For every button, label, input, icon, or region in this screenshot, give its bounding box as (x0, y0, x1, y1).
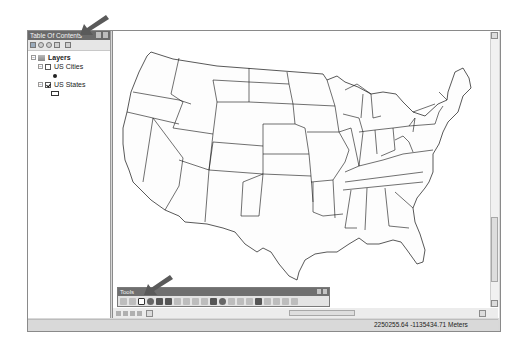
layer-visibility-checkbox[interactable] (45, 64, 51, 70)
find-route-icon[interactable] (264, 298, 271, 305)
zoom-out-icon[interactable] (129, 298, 136, 305)
layer-label: US Cities (54, 62, 83, 71)
layout-view-button[interactable] (123, 311, 128, 316)
scroll-down-button[interactable] (491, 300, 498, 307)
refresh-button[interactable] (130, 311, 135, 316)
annotation-arrow-tools (140, 272, 174, 298)
fixed-zoom-out-icon[interactable] (165, 298, 172, 305)
pan-icon[interactable] (138, 298, 145, 305)
create-viewer-icon[interactable] (291, 298, 298, 305)
tools-title: Tools (120, 289, 134, 295)
layer-tree: − Layers − US Cities − US States (28, 51, 110, 98)
list-by-selection-icon[interactable] (54, 42, 60, 48)
identify-icon[interactable] (219, 298, 226, 305)
collapse-icon[interactable]: − (31, 55, 36, 60)
scroll-left-button[interactable] (146, 310, 153, 317)
time-slider-icon[interactable] (282, 298, 289, 305)
full-extent-icon[interactable] (147, 298, 154, 305)
annotation-arrow-toc (76, 12, 110, 38)
select-elements-icon[interactable] (210, 298, 217, 305)
tools-options-button[interactable] (317, 289, 321, 294)
legend-us-cities[interactable] (28, 71, 110, 80)
status-bar: 2250255.64 -1135434.71 Meters (28, 319, 498, 331)
tools-close-button[interactable] (323, 289, 327, 294)
zoom-in-icon[interactable] (120, 298, 127, 305)
vertical-scrollbar[interactable] (490, 32, 499, 307)
layer-label: US States (54, 80, 86, 89)
toc-toolbar (28, 40, 110, 51)
polygon-symbol-icon[interactable] (51, 91, 59, 96)
collapse-icon[interactable]: − (38, 82, 43, 87)
horizontal-bar (113, 308, 498, 318)
point-symbol-icon[interactable] (53, 74, 57, 78)
legend-us-states[interactable] (28, 89, 110, 98)
measure-icon[interactable] (246, 298, 253, 305)
horizontal-scroll-thumb[interactable] (289, 310, 355, 316)
select-features-icon[interactable] (192, 298, 199, 305)
hyperlink-icon[interactable] (228, 298, 235, 305)
layers-icon (38, 55, 45, 61)
list-by-source-icon[interactable] (38, 42, 44, 48)
us-states-map[interactable] (113, 32, 491, 307)
clear-selection-icon[interactable] (201, 298, 208, 305)
toc-title: Table Of Contents (30, 32, 82, 39)
list-by-visibility-icon[interactable] (46, 42, 52, 48)
go-forward-icon[interactable] (183, 298, 190, 305)
find-icon[interactable] (255, 298, 262, 305)
options-icon[interactable] (65, 42, 71, 48)
html-popup-icon[interactable] (237, 298, 244, 305)
coordinates-display: 2250255.64 -1135434.71 Meters (374, 321, 468, 328)
map-display[interactable] (113, 32, 491, 307)
pause-drawing-button[interactable] (137, 311, 142, 316)
scroll-up-button[interactable] (491, 32, 498, 39)
go-to-xy-icon[interactable] (273, 298, 280, 305)
scroll-right-button[interactable] (479, 310, 486, 317)
list-by-drawing-order-icon[interactable] (30, 42, 36, 48)
data-view-button[interactable] (116, 311, 121, 316)
vertical-scroll-thumb[interactable] (491, 217, 498, 282)
table-of-contents-panel: Table Of Contents − Layers − US Cities − (28, 31, 111, 318)
go-back-icon[interactable] (174, 298, 181, 305)
layer-us-cities[interactable]: − US Cities (28, 62, 110, 71)
layer-visibility-checkbox[interactable] (45, 82, 51, 88)
layers-root-label: Layers (48, 53, 71, 62)
layer-us-states[interactable]: − US States (28, 80, 110, 89)
layers-root[interactable]: − Layers (28, 53, 110, 62)
collapse-icon[interactable]: − (38, 64, 43, 69)
fixed-zoom-in-icon[interactable] (156, 298, 163, 305)
